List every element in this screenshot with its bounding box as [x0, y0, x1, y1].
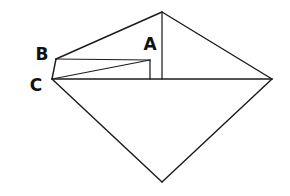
geometry-figure-canvas: A B C — [0, 0, 290, 196]
edge-c-to-b — [52, 59, 56, 79]
vertex-label-b: B — [36, 44, 49, 64]
edge-apex-to-right — [162, 12, 272, 79]
vertex-label-a: A — [143, 34, 157, 54]
edge-bottom-to-c — [52, 79, 162, 182]
vertex-label-c: C — [30, 75, 42, 95]
edge-right-to-bottom — [162, 79, 272, 182]
vertex-labels-group: A B C — [30, 34, 158, 95]
segment-c-to-a — [52, 60, 150, 79]
geometry-figure-container: A B C — [0, 0, 290, 196]
segment-b-to-a — [56, 59, 150, 60]
